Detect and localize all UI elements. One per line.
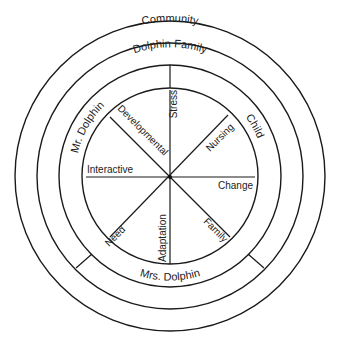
label-community: Community [141,12,201,27]
divider-lower-right [248,254,264,268]
label-mrs-dolphin: Mrs. Dolphin [139,266,201,282]
label-adaptation: Adaptation [157,214,168,262]
divider-lower-left [76,254,92,268]
label-dolphin-family: Dolphin Family [131,37,209,55]
label-change: Change [218,180,253,191]
label-nursing: Nursing [204,121,236,153]
family-systems-diagram: Community Dolphin Family Mr. Dolphin Chi… [0,0,337,341]
label-stress: Stress [168,90,179,118]
center-dot [168,175,172,179]
label-interactive: Interactive [87,164,134,175]
label-family: Family [202,216,231,245]
